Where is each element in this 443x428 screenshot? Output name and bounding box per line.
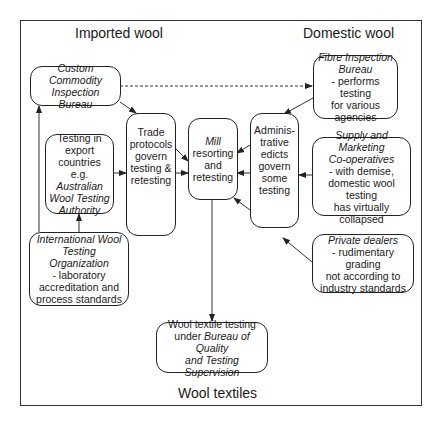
node-international: International Wool Testing Organization … — [29, 232, 129, 306]
region-label-imported: Imported wool — [75, 25, 163, 41]
node-text: under — [174, 330, 204, 342]
region-label-textiles: Wool textiles — [178, 385, 257, 401]
node-text: countries e.g. — [49, 156, 110, 180]
node-text: some — [262, 172, 288, 184]
node-private-dealers: Private dealers - rudimentary grading no… — [312, 234, 414, 293]
node-title: and Testing — [185, 354, 239, 366]
node-text: collapsed — [339, 213, 383, 225]
node-title: Authority — [59, 204, 100, 216]
node-text: export — [65, 144, 94, 156]
node-text: - performs testing — [317, 75, 394, 99]
node-text: testing — [259, 184, 290, 196]
node-title: Bureau — [339, 63, 373, 75]
node-title: Fibre Inspection — [318, 51, 393, 63]
node-text: not according to — [326, 270, 401, 282]
node-text: process standards — [36, 293, 122, 305]
edge-private-to-admin — [283, 238, 312, 262]
node-text: - with demise, — [329, 165, 394, 177]
node-fibre-inspection: Fibre Inspection Bureau - performs testi… — [313, 55, 398, 119]
edge-custom-to-trade — [120, 102, 136, 113]
edge-admin-to-mill-3 — [234, 198, 250, 210]
node-text: - rudimentary grading — [316, 246, 410, 270]
node-text: for various — [331, 99, 380, 111]
node-text: industry standards — [320, 282, 406, 294]
node-text: retesting — [131, 174, 171, 186]
node-trade-protocols: Trade protocols govern testing & retesti… — [126, 113, 176, 236]
node-text: edicts — [261, 148, 288, 160]
node-text: resorting — [193, 147, 234, 159]
node-wool-textile: Wool textile testing under Bureau of Qua… — [156, 322, 268, 373]
node-title: Co-operatives — [329, 153, 394, 165]
node-custom-commodity: Custom Commodity Inspection Bureau — [30, 66, 121, 106]
node-text: and — [204, 159, 222, 171]
node-text: govern — [135, 150, 167, 162]
node-title: Wool Testing — [49, 192, 109, 204]
node-text: domestic wool testing — [316, 177, 407, 201]
node-text: trative — [260, 136, 289, 148]
node-title: Organization — [49, 257, 109, 269]
node-title: Private dealers — [328, 234, 398, 246]
node-testing-export: Testing in export countries e.g. Austral… — [45, 134, 114, 214]
node-text: has virtually — [334, 201, 389, 213]
node-text: accreditation and — [39, 281, 119, 293]
node-supply-marketing: Supply and Marketing Co-operatives - wit… — [312, 137, 411, 216]
node-text: govern — [258, 160, 290, 172]
node-text-mixed: under Bureau of Quality — [160, 330, 264, 354]
node-text: testing & — [131, 162, 172, 174]
node-title: Supervision — [185, 366, 240, 378]
edge-fibre-to-admin — [284, 98, 313, 114]
region-label-domestic: Domestic wool — [303, 25, 394, 41]
node-title: Testing — [62, 245, 95, 257]
node-text: retesting — [193, 171, 233, 183]
edge-admin-to-mill-1 — [237, 145, 250, 153]
node-title: Australian — [56, 180, 103, 192]
node-title: International Wool — [37, 233, 122, 245]
node-mill: Mill resorting and retesting — [188, 118, 238, 200]
node-title: Custom Commodity Inspection Bureau — [36, 62, 116, 110]
node-text: agencies — [334, 111, 376, 123]
node-text: Adminis- — [254, 124, 295, 136]
node-title: Mill — [205, 135, 221, 147]
node-text: Trade — [137, 126, 164, 138]
node-text: Wool textile testing — [168, 318, 256, 330]
edge-trade-to-mill-1 — [175, 148, 188, 161]
node-text: Testing in — [57, 132, 101, 144]
node-text: protocols — [130, 138, 173, 150]
node-text: - laboratory — [52, 269, 105, 281]
node-title: Bureau of Quality — [196, 330, 250, 354]
node-administrative: Adminis- trative edicts govern some test… — [250, 113, 299, 228]
node-title: Supply and Marketing — [316, 129, 407, 153]
